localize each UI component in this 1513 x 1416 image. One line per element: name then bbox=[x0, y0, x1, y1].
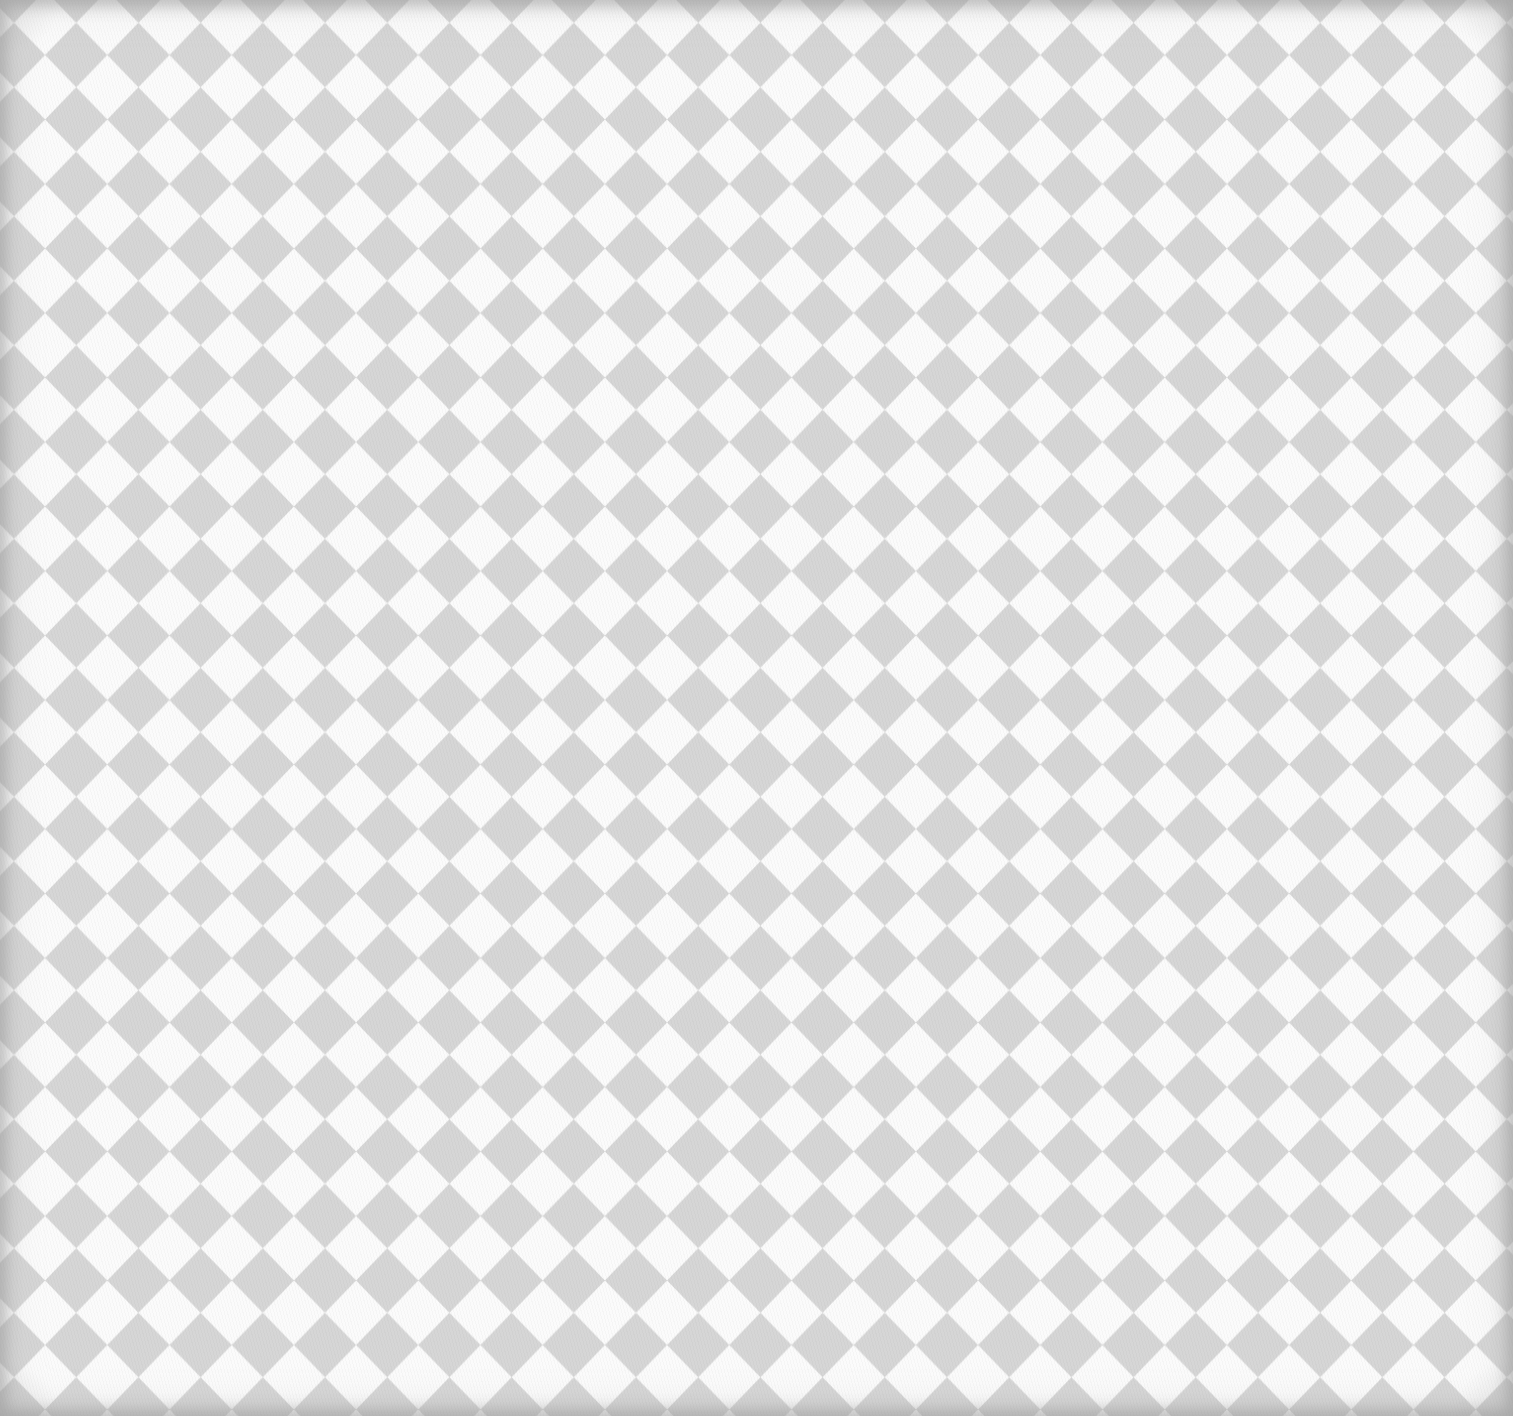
diamond-fabric-texture bbox=[0, 0, 1513, 1416]
diamond-pattern bbox=[0, 0, 1513, 1416]
